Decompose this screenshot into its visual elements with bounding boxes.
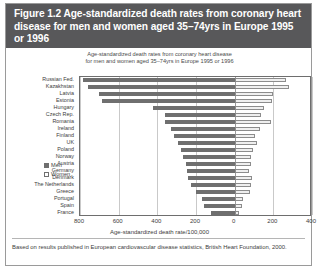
legend-label-men: Men	[51, 161, 62, 170]
bar-row	[80, 105, 310, 112]
bar-men	[181, 148, 235, 152]
bar-men	[174, 134, 235, 138]
category-label: Finland	[56, 132, 74, 139]
source-note: Based on results published in European c…	[12, 243, 302, 251]
bar-women	[235, 134, 255, 138]
bar-women	[235, 155, 251, 159]
x-tick-label: 0	[232, 218, 235, 224]
category-label: UK	[67, 139, 75, 146]
bar-men	[186, 162, 235, 166]
category-label: Romania	[52, 118, 74, 125]
bar-women	[235, 204, 242, 208]
bar-row	[80, 161, 310, 168]
x-tick-label: 800	[74, 218, 84, 224]
bar-men	[165, 120, 235, 124]
bar-row	[80, 126, 310, 133]
category-axis-labels: Russian Fed.KazakhstanLatviaEstoniaHunga…	[14, 76, 77, 216]
category-label: Spain	[60, 202, 74, 209]
bar-women	[235, 92, 274, 96]
bar-men	[204, 204, 235, 208]
bar-men	[88, 85, 235, 89]
plot-area	[79, 76, 311, 216]
category-label: Greece	[56, 188, 74, 195]
bar-row	[80, 175, 310, 182]
category-label: Czech Rep.	[46, 111, 74, 118]
bar-men	[202, 197, 234, 201]
bar-women	[235, 141, 257, 145]
category-label: The Netherlands	[34, 181, 74, 188]
bar-women	[235, 162, 251, 166]
bar-women	[235, 120, 272, 124]
bar-men	[187, 169, 234, 173]
category-label: Latvia	[60, 90, 74, 97]
bar-men	[171, 127, 234, 131]
category-label: Poland	[57, 146, 74, 153]
bar-row	[80, 210, 310, 217]
x-tick-label: 200	[190, 218, 200, 224]
chart-card: Age-standardized death rates from corona…	[14, 51, 305, 237]
bar-men	[191, 183, 235, 187]
bar-women	[235, 127, 260, 131]
category-label: Estonia	[56, 97, 74, 104]
category-label: Norway	[56, 153, 74, 160]
bar-women	[235, 113, 261, 117]
category-label: Ireland	[58, 125, 74, 132]
bar-women	[235, 169, 250, 173]
chart-legend: Men Women	[44, 161, 70, 179]
bar-men	[188, 176, 234, 180]
bar-men	[99, 92, 235, 96]
bar-women	[235, 106, 264, 110]
bar-row	[80, 112, 310, 119]
x-axis-title: Age-standardized death rate/100,000	[14, 229, 305, 235]
bar-row	[80, 98, 310, 105]
value-axis-ticks: 8006004002000200400	[79, 218, 311, 228]
x-tick-label: 400	[151, 218, 161, 224]
chart-subtitle-line-2: for men and women aged 35–74yrs in Europ…	[14, 58, 305, 65]
bar-men	[183, 155, 235, 159]
bar-women	[235, 176, 252, 180]
bar-row	[80, 147, 310, 154]
bar-women	[235, 78, 286, 82]
bar-women	[235, 85, 289, 89]
footer-divider	[12, 238, 305, 239]
bar-women	[235, 197, 244, 201]
bar-row	[80, 182, 310, 189]
bar-women	[235, 211, 239, 215]
bar-women	[235, 183, 251, 187]
bar-row	[80, 154, 310, 161]
bar-men	[165, 113, 235, 117]
legend-item-women: Women	[44, 170, 70, 179]
legend-item-men: Men	[44, 161, 70, 170]
category-label: Kazakhstan	[46, 83, 74, 90]
bar-row	[80, 133, 310, 140]
bar-rows	[80, 77, 310, 215]
chart-subtitle: Age-standardized death rates from corona…	[14, 51, 305, 65]
category-label: Portugal	[54, 195, 74, 202]
bar-women	[235, 148, 253, 152]
bar-row	[80, 196, 310, 203]
x-tick-label: 200	[267, 218, 277, 224]
men-swatch-icon	[44, 163, 49, 168]
bar-row	[80, 91, 310, 98]
bar-row	[80, 140, 310, 147]
bar-men	[102, 99, 235, 103]
bar-women	[235, 190, 250, 194]
bar-row	[80, 189, 310, 196]
figure-container: Figure 1.2 Age-standardized death rates …	[5, 3, 312, 266]
women-swatch-icon	[44, 172, 49, 177]
category-label: France	[57, 209, 74, 216]
bar-row	[80, 119, 310, 126]
bar-men	[196, 190, 235, 194]
bar-men	[178, 141, 235, 145]
bar-men	[211, 211, 234, 215]
gridline	[312, 77, 313, 215]
bar-women	[235, 99, 273, 103]
bar-row	[80, 203, 310, 210]
legend-label-women: Women	[51, 170, 70, 179]
bar-row	[80, 77, 310, 84]
x-tick-label: 600	[113, 218, 123, 224]
bar-men	[83, 78, 234, 82]
bar-men	[153, 106, 235, 110]
category-label: Russian Fed.	[42, 76, 74, 83]
figure-title: Figure 1.2 Age-standardized death rates …	[14, 8, 301, 44]
